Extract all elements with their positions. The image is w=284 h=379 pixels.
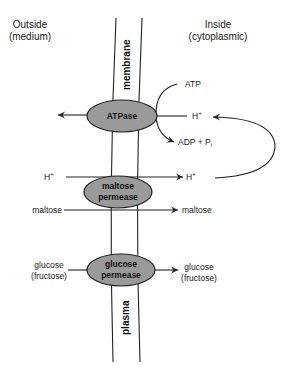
h-plus-outside: H+ <box>44 171 54 182</box>
h-plus-inside-bottom: H+ <box>186 171 196 182</box>
atp-label: ATP <box>185 79 201 89</box>
maltose-outside-label: maltose <box>32 205 62 215</box>
membrane-transport-diagram: Outside (medium) Inside (cytoplasmic) me… <box>0 0 284 379</box>
glucose-inside-label-2: (fructose) <box>181 273 217 283</box>
atpase-label: ATPase <box>107 111 138 121</box>
glucose-outside-label-2: (fructose) <box>31 271 67 281</box>
outside-subheader: (medium) <box>9 31 51 42</box>
glucose-permease-label-1: glucose <box>105 259 137 269</box>
maltose-permease-label-1: maltose <box>102 181 134 191</box>
atp-hydrolysis-arrow <box>156 84 177 142</box>
glucose-inside-label-1: glucose <box>184 262 214 272</box>
h-plus-inside-top: H+ <box>192 110 202 121</box>
proton-recycle-arrow <box>213 117 275 178</box>
membrane-label: membrane <box>121 39 132 90</box>
glucose-outside-label-1: glucose <box>34 260 64 270</box>
maltose-permease-label-2: permease <box>98 192 138 202</box>
inside-subheader: (cytoplasmic) <box>189 31 248 42</box>
adp-pi-label: ADP + Pi <box>178 137 212 148</box>
glucose-permease-label-2: permease <box>101 270 141 280</box>
maltose-inside-label: maltose <box>182 205 212 215</box>
plasma-label: plasma <box>120 300 131 335</box>
inside-header: Inside <box>205 19 232 30</box>
outside-header: Outside <box>13 19 48 30</box>
